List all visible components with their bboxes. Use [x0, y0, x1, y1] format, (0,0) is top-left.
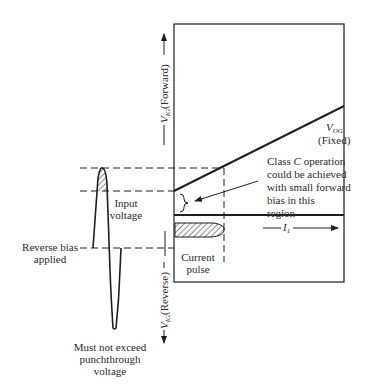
brace-icon [180, 194, 188, 212]
reverse-bias-label: Reverse bias [22, 241, 78, 253]
svg-text:voltage: voltage [110, 209, 142, 221]
svg-text:pulse: pulse [186, 263, 209, 275]
svg-text:region: region [267, 207, 296, 219]
input-voltage-label: Input [114, 197, 137, 209]
class-c-annotation: Class C operation [267, 155, 346, 167]
vog-label: VOG [326, 121, 343, 135]
svg-text:could be achieved: could be achieved [267, 168, 347, 180]
vog-fixed-label: (Fixed) [318, 134, 351, 147]
current-pulse-label: Current [181, 251, 215, 263]
punchthrough-label: Must not exceed [74, 341, 147, 353]
svg-text:voltage: voltage [94, 365, 126, 377]
svg-text:applied: applied [34, 253, 67, 265]
svg-text:bias in this: bias in this [267, 194, 315, 206]
bias-diagram: VIG(Forward) VIG(Reverse) I1 VOG (Fixed)… [0, 0, 382, 392]
svg-text:punchthrough: punchthrough [79, 353, 141, 365]
current-pulse-shape [175, 223, 224, 237]
plot-frame [174, 24, 344, 282]
annotation-arrow [195, 181, 258, 201]
svg-text:with small forward: with small forward [267, 181, 351, 193]
